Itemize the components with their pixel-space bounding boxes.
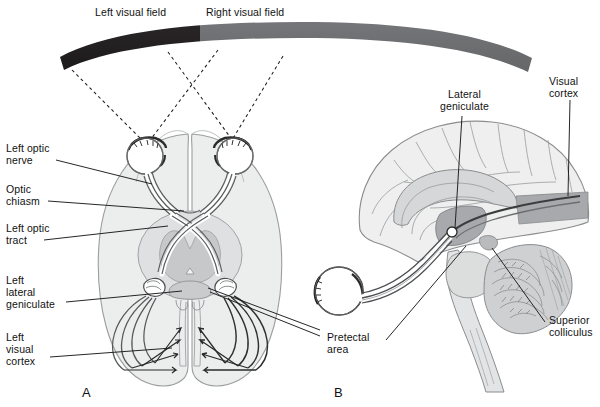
label-superior-colliculus: Superior colliculus [549,314,593,338]
label-left-visual-cortex: Left visual cortex [6,331,35,368]
label-pretectal-area: Pretectal area [327,331,369,355]
dashed-line-4 [232,56,283,140]
right-lateral-geniculate-shape [215,278,236,296]
dashed-line-2 [168,52,233,141]
label-visual-cortex: Visual cortex [549,75,578,99]
label-left-optic-tract: Left optic tract [6,222,50,246]
label-left-lateral-geniculate: Left lateral geniculate [6,274,55,311]
dashed-line-3 [148,50,218,143]
right-field-segment [200,18,540,78]
label-right-visual-field: Right visual field [206,6,284,18]
pretectal-area-shape [169,281,211,299]
visual-field-bar [55,18,540,78]
eye-sagittal [315,267,363,315]
left-field-segment [55,18,200,78]
label-optic-chiasm: Optic chiasm [6,183,40,207]
panel-b-letter: B [334,385,343,400]
projection-lines [72,50,283,143]
label-left-optic-nerve: Left optic nerve [6,142,50,166]
panel-a-letter: A [82,385,91,400]
visual-pathway-figure [0,0,600,407]
label-lateral-geniculate: Lateral geniculate [440,88,489,112]
dashed-line-1 [72,70,143,141]
superior-colliculus-shape [480,236,498,250]
label-left-visual-field: Left visual field [95,6,166,18]
lateral-geniculate-node [447,227,457,237]
